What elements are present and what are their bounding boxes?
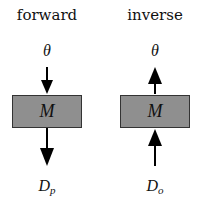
arrows-layer <box>0 0 198 201</box>
inverse-output-arrow-icon <box>148 67 162 94</box>
forward-input-arrow-icon <box>41 67 53 94</box>
inverse-input-arrow-icon <box>148 129 162 166</box>
forward-output-arrow-icon <box>40 128 54 166</box>
